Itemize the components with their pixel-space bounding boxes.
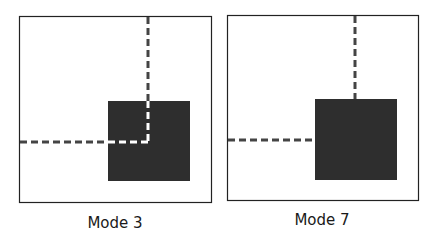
panel-mode-7 xyxy=(228,16,419,201)
caption-mode-3: Mode 3 xyxy=(55,214,175,232)
panel-mode-3 xyxy=(20,17,212,203)
mode-diagrams xyxy=(0,0,436,238)
dark-square xyxy=(315,99,397,180)
caption-mode-7: Mode 7 xyxy=(262,211,382,229)
